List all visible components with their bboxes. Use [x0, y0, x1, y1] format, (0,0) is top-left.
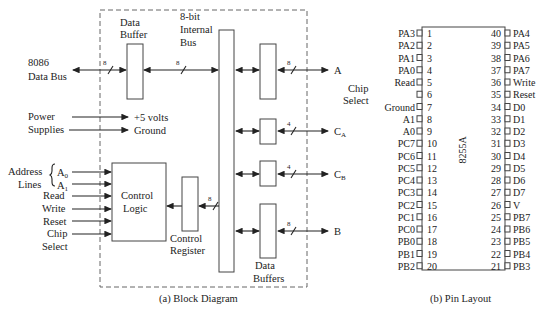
- pin-row: 26V: [491, 200, 521, 211]
- pin-square-icon: [417, 140, 422, 146]
- pin-name: D4: [513, 151, 525, 162]
- pin-name: PC6: [398, 151, 415, 162]
- pin-number: 35: [491, 89, 501, 100]
- pin-row: 36Write: [491, 77, 536, 88]
- control-logic-label-1: Control: [121, 190, 153, 201]
- port-b-buffer: [260, 204, 276, 258]
- pin-number: 37: [491, 65, 501, 76]
- pin-name: PB3: [513, 261, 530, 272]
- pin-square-icon: [505, 189, 510, 195]
- pin-square-icon: [417, 42, 422, 48]
- pin-number: 7: [427, 102, 432, 113]
- pin-name: Reset: [513, 89, 535, 100]
- control-register-label-1: Control: [170, 233, 202, 244]
- port-a-buffer: [260, 44, 276, 99]
- port-b-label: B: [334, 226, 341, 237]
- pin-square-icon: [417, 30, 422, 36]
- pin-number: 23: [491, 236, 501, 247]
- pin-square-icon: [505, 91, 510, 97]
- pin-number: 24: [491, 224, 501, 235]
- pin-row: A09: [403, 126, 432, 137]
- pin-name: PA7: [513, 65, 530, 76]
- pin-name: D3: [513, 138, 525, 149]
- pin-name: D6: [513, 175, 525, 186]
- pin-number: 18: [427, 236, 437, 247]
- pin-name: PA0: [398, 65, 415, 76]
- pin-square-icon: [505, 79, 510, 85]
- pin-row: 37PA7: [491, 65, 530, 76]
- pin-row: 31D3: [491, 138, 525, 149]
- block-diagram-caption: (a) Block Diagram: [159, 293, 238, 305]
- port-ca-width: 4: [287, 120, 291, 128]
- pin-name: PC2: [398, 200, 415, 211]
- pin-row: PA04: [398, 65, 432, 76]
- pin-name: D1: [513, 114, 525, 125]
- pin-row: PC710: [398, 138, 437, 149]
- pin-name: PC4: [398, 175, 415, 186]
- pin-number: 38: [491, 53, 501, 64]
- pin-name: PA2: [398, 40, 415, 51]
- pin-square-icon: [417, 116, 422, 122]
- pin-row: PC611: [398, 151, 437, 162]
- pin-row: 35Reset: [491, 89, 535, 100]
- pin-square-icon: [505, 251, 510, 257]
- pin-row: 23PB5: [491, 236, 530, 247]
- pin-number: 22: [491, 249, 501, 260]
- pin-row: PC116: [398, 212, 437, 223]
- data-buffers-label-1: Data: [255, 260, 275, 271]
- pin-name: PC3: [398, 187, 415, 198]
- pin-name: PA3: [398, 28, 415, 39]
- write-label: Write: [42, 203, 66, 214]
- port-a-label: A: [334, 65, 342, 76]
- pin-square-icon: [505, 128, 510, 134]
- pin-name: V: [513, 200, 521, 211]
- pin-number: 28: [491, 175, 501, 186]
- pin-number: 29: [491, 163, 501, 174]
- internal-bus-box: [219, 30, 234, 272]
- pin-number: 21: [491, 261, 501, 272]
- pin-row: PB018: [398, 236, 437, 247]
- pin-square-icon: [417, 165, 422, 171]
- pin-square-icon: [505, 104, 510, 110]
- pin-row: Read5: [394, 77, 432, 88]
- select-label: Select: [42, 241, 68, 252]
- pin-row: 25PB7: [491, 212, 530, 223]
- pin-number: 12: [427, 163, 437, 174]
- pin-name: PA4: [513, 28, 530, 39]
- pin-square-icon: [417, 153, 422, 159]
- pin-number: 19: [427, 249, 437, 260]
- pin-number: 17: [427, 224, 437, 235]
- pin-row: 30D4: [491, 151, 525, 162]
- pin-number: 11: [427, 151, 437, 162]
- port-cb-width: 4: [287, 163, 291, 171]
- port-a-width: 8: [287, 59, 291, 67]
- pin-name: Write: [513, 77, 536, 88]
- port-cb-label: CB: [334, 169, 346, 182]
- pin-number: 40: [491, 28, 501, 39]
- pin-row: PB119: [398, 249, 437, 260]
- pin-square-icon: [417, 202, 422, 208]
- data-bus-label-2: Data Bus: [28, 71, 67, 82]
- pin-number: 14: [427, 187, 437, 198]
- pin-square-icon: [505, 55, 510, 61]
- control-logic-label-2: Logic: [123, 203, 148, 214]
- pin-number: 32: [491, 126, 501, 137]
- pin-name: PC7: [398, 138, 415, 149]
- pin-number: 33: [491, 114, 501, 125]
- pin-name: D0: [513, 102, 525, 113]
- pin-number: 16: [427, 212, 437, 223]
- port-ca-label: CA: [334, 126, 346, 139]
- pin-square-icon: [505, 165, 510, 171]
- pin-row: PC512: [398, 163, 437, 174]
- data-buffer-label-2: Buffer: [120, 29, 148, 40]
- control-register-label-2: Register: [170, 245, 205, 256]
- pin-row: PA31: [398, 28, 432, 39]
- internal-bus-width: 8: [176, 59, 180, 67]
- internal-bus-label-1: 8-bit: [180, 11, 200, 22]
- diagram-canvas: 8086 Data Bus 8 Data Buffer 8 8-bit Inte…: [0, 0, 548, 311]
- chip-name: 8255A: [457, 136, 468, 164]
- control-logic-box: [112, 163, 166, 241]
- pin-name: PB1: [398, 249, 415, 260]
- pin-number: 26: [491, 200, 501, 211]
- pin-row: 32D2: [491, 126, 525, 137]
